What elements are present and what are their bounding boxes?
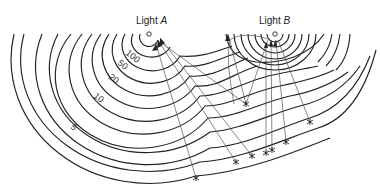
- illuminance-diagram: Light A Light B 100 50 20 10 5: [0, 0, 380, 185]
- isolines-source-b: [226, 34, 350, 70]
- contour-label-20: 20: [107, 72, 121, 86]
- light-a-marker: [147, 32, 151, 36]
- isolines-source-a: [11, 34, 376, 183]
- light-a-label: Light A: [136, 15, 167, 26]
- light-b-marker: [273, 32, 277, 36]
- contour-label-10: 10: [92, 91, 106, 105]
- source-a: Light A: [136, 15, 167, 36]
- point-markers: [193, 101, 313, 181]
- light-b-label: Light B: [259, 15, 290, 26]
- source-b: Light B: [259, 15, 290, 36]
